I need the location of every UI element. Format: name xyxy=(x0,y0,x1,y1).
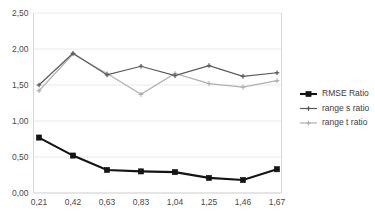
legend-swatch-marker xyxy=(306,91,311,96)
x-tick-label-0: 0,21 xyxy=(31,197,48,207)
plot-background xyxy=(34,13,282,193)
legend-label: range t ratio xyxy=(322,117,368,127)
y-tick-label-2: 1,00 xyxy=(12,116,29,126)
y-tick-label-3: 1,50 xyxy=(12,80,29,90)
data-point-7 xyxy=(274,167,279,172)
data-point-0 xyxy=(36,135,41,140)
x-tick-label-1: 0,42 xyxy=(65,197,82,207)
legend-label: RMSE Ratio xyxy=(322,88,369,98)
x-tick-label-3: 0,83 xyxy=(133,197,150,207)
data-point-3 xyxy=(138,169,143,174)
legend-item-range-s-ratio[interactable]: range s ratio xyxy=(300,103,370,113)
y-axis-tick-labels: 0,000,501,001,502,002,50 xyxy=(12,8,29,198)
data-point-6 xyxy=(240,177,245,182)
y-tick-label-0: 0,00 xyxy=(12,188,29,198)
x-tick-label-4: 1,04 xyxy=(167,197,184,207)
data-point-4 xyxy=(172,170,177,175)
legend-item-range-t-ratio[interactable]: range t ratio xyxy=(300,117,368,127)
x-tick-label-7: 1,67 xyxy=(269,197,286,207)
legend-item-rmse-ratio[interactable]: RMSE Ratio xyxy=(300,88,369,98)
y-tick-label-5: 2,50 xyxy=(12,8,29,18)
x-tick-label-5: 1,25 xyxy=(201,197,218,207)
data-point-1 xyxy=(70,153,75,158)
legend-label: range s ratio xyxy=(322,103,370,113)
y-tick-label-1: 0,50 xyxy=(12,152,29,162)
line-chart: 0,000,501,001,502,002,50 0,210,420,630,8… xyxy=(0,0,375,221)
x-tick-label-6: 1,46 xyxy=(235,197,252,207)
x-axis-tick-labels: 0,210,420,630,831,041,251,461,67 xyxy=(31,197,286,207)
chart-legend: RMSE Ratiorange s ratiorange t ratio xyxy=(300,88,370,127)
x-tick-label-2: 0,63 xyxy=(99,197,116,207)
chart-canvas: 0,000,501,001,502,002,50 0,210,420,630,8… xyxy=(0,0,375,221)
data-point-2 xyxy=(104,167,109,172)
data-point-5 xyxy=(206,175,211,180)
y-tick-label-4: 2,00 xyxy=(12,44,29,54)
